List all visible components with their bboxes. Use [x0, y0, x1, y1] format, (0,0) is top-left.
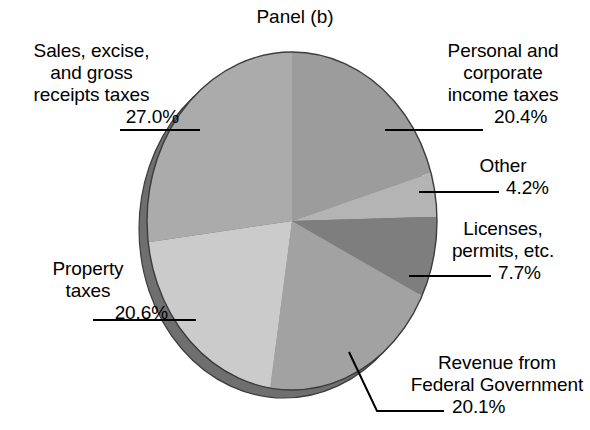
label-other: Other 4.2% — [420, 155, 586, 199]
pie-chart-figure: Panel (b) — [0, 0, 590, 430]
label-value: 20.4% — [420, 106, 586, 128]
label-line: receipts taxes — [4, 84, 179, 106]
label-line: Personal and — [420, 40, 586, 62]
label-personal-and-corporate-income-taxes: Personal and corporate income taxes 20.4… — [420, 40, 586, 128]
label-revenue-from-federal-government: Revenue from Federal Government 20.1% — [404, 352, 590, 418]
label-line: permits, etc. — [420, 240, 586, 262]
label-value: 27.0% — [4, 106, 179, 128]
label-line: income taxes — [420, 84, 586, 106]
label-line: Federal Government — [404, 374, 590, 396]
label-line: Other — [420, 155, 586, 177]
label-line: taxes — [8, 280, 168, 302]
label-line: and gross — [4, 62, 179, 84]
label-sales-excise-and-gross-receipts-taxes: Sales, excise, and gross receipts taxes … — [4, 40, 179, 128]
label-value: 20.6% — [8, 302, 168, 324]
label-line: Sales, excise, — [4, 40, 179, 62]
label-licenses-permits-etc: Licenses, permits, etc. 7.7% — [420, 218, 586, 284]
label-value: 7.7% — [420, 262, 586, 284]
label-line: Licenses, — [420, 218, 586, 240]
label-line: Revenue from — [404, 352, 590, 374]
pie-slice-property-taxes[interactable] — [148, 221, 292, 388]
label-value: 4.2% — [420, 177, 586, 199]
label-value: 20.1% — [404, 396, 590, 418]
label-property-taxes: Property taxes 20.6% — [8, 258, 168, 324]
label-line: corporate — [420, 62, 586, 84]
label-line: Property — [8, 258, 168, 280]
